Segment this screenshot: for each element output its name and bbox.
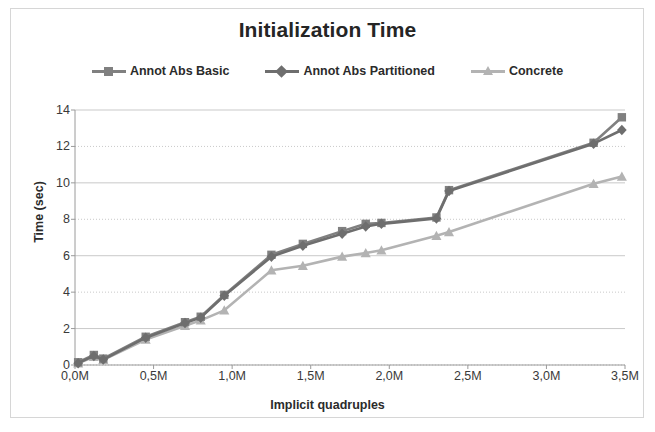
plot-svg: [0, 0, 655, 432]
y-tick-label: 14: [42, 103, 70, 117]
series-marker-square: [618, 113, 626, 121]
x-tick-label: 2,5M: [454, 369, 482, 383]
y-axis-label: Time (sec): [32, 167, 46, 257]
y-tick-label: 12: [42, 139, 70, 153]
x-tick-label: 0,0M: [61, 369, 89, 383]
series-line: [78, 176, 622, 363]
x-axis-label: Implicit quadruples: [0, 398, 655, 412]
series-marker-diamond: [617, 125, 627, 136]
x-tick-label: 2,0M: [375, 369, 403, 383]
x-tick-label: 0,5M: [140, 369, 168, 383]
chart-figure: Initialization Time Annot Abs BasicAnnot…: [0, 0, 655, 432]
y-tick-label: 10: [42, 176, 70, 190]
x-tick-label: 3,5M: [611, 369, 639, 383]
y-tick-label: 4: [42, 285, 70, 299]
plot-area: 02468101214 0,0M0,5M1,0M1,5M2,0M2,5M3,0M…: [0, 0, 655, 432]
x-tick-label: 3,0M: [533, 369, 561, 383]
x-tick-label: 1,5M: [297, 369, 325, 383]
x-tick-label: 1,0M: [218, 369, 246, 383]
y-tick-label: 8: [42, 212, 70, 226]
series-line: [78, 117, 622, 362]
y-tick-label: 2: [42, 322, 70, 336]
y-tick-label: 6: [42, 249, 70, 263]
